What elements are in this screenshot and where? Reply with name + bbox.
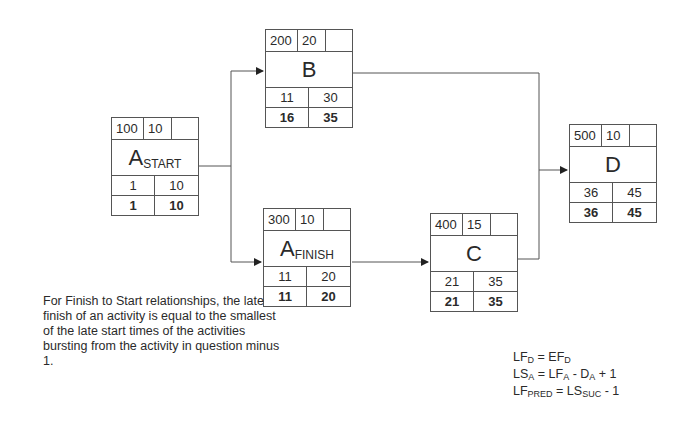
early-finish: 45 <box>613 183 656 202</box>
extra-cell <box>172 118 198 139</box>
late-start: 36 <box>570 203 613 222</box>
duration: 10 <box>602 125 630 146</box>
late-finish: 35 <box>309 108 352 127</box>
activity-name: C <box>431 236 517 272</box>
activity-code: 300 <box>264 209 296 230</box>
duration: 10 <box>144 118 172 139</box>
extra-cell <box>324 209 350 230</box>
node-a-start[interactable]: 100 10 ASTART 1 10 1 10 <box>111 117 199 216</box>
activity-name: B <box>266 52 352 88</box>
activity-code: 500 <box>570 125 602 146</box>
explanation-note: For Finish to Start relationships, the l… <box>43 294 283 369</box>
late-start: 21 <box>431 292 474 311</box>
formula-block: LFD = EFD LSA = LFA - DA + 1 LFPRED = LS… <box>513 350 619 401</box>
activity-name: ASTART <box>112 140 198 176</box>
activity-code: 400 <box>431 214 463 235</box>
early-start: 11 <box>264 267 307 286</box>
extra-cell <box>630 125 656 146</box>
node-c[interactable]: 400 15 C 21 35 21 35 <box>430 213 518 312</box>
duration: 20 <box>298 30 326 51</box>
formula-line: LSA = LFA - DA + 1 <box>513 367 619 384</box>
late-start: 1 <box>112 196 155 215</box>
extra-cell <box>326 30 352 51</box>
early-finish: 30 <box>309 88 352 107</box>
late-finish: 35 <box>474 292 517 311</box>
formula-line: LFPRED = LSSUC - 1 <box>513 384 619 401</box>
late-finish: 45 <box>613 203 656 222</box>
node-d[interactable]: 500 10 D 36 45 36 45 <box>569 124 657 223</box>
duration: 15 <box>463 214 491 235</box>
node-b[interactable]: 200 20 B 11 30 16 35 <box>265 29 353 128</box>
formula-line: LFD = EFD <box>513 350 619 367</box>
duration: 10 <box>296 209 324 230</box>
early-start: 1 <box>112 176 155 195</box>
early-finish: 35 <box>474 272 517 291</box>
activity-code: 100 <box>112 118 144 139</box>
node-a-finish[interactable]: 300 10 AFINISH 11 20 11 20 <box>263 208 351 307</box>
late-start: 16 <box>266 108 309 127</box>
early-finish: 20 <box>307 267 350 286</box>
early-finish: 10 <box>155 176 198 195</box>
activity-code: 200 <box>266 30 298 51</box>
early-start: 21 <box>431 272 474 291</box>
activity-name: AFINISH <box>264 231 350 267</box>
late-finish: 20 <box>307 287 350 306</box>
early-start: 11 <box>266 88 309 107</box>
early-start: 36 <box>570 183 613 202</box>
late-finish: 10 <box>155 196 198 215</box>
extra-cell <box>491 214 517 235</box>
activity-name: D <box>570 147 656 183</box>
